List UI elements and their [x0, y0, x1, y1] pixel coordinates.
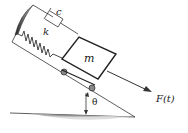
spring-label: k: [43, 27, 49, 37]
force-arrowhead: [143, 86, 152, 92]
force-label: F(t): [156, 94, 175, 104]
angle-label: θ: [92, 98, 97, 107]
angle-arrowhead-bottom: [84, 110, 88, 115]
mass-label: m: [84, 53, 94, 64]
ground-shade: [30, 114, 130, 120]
incline-diagram: [0, 0, 188, 133]
wheel-right: [89, 85, 95, 91]
damper-label: c: [56, 7, 62, 17]
frame-left: [12, 34, 16, 42]
spring: [16, 31, 62, 58]
force-arrow: [107, 71, 147, 90]
